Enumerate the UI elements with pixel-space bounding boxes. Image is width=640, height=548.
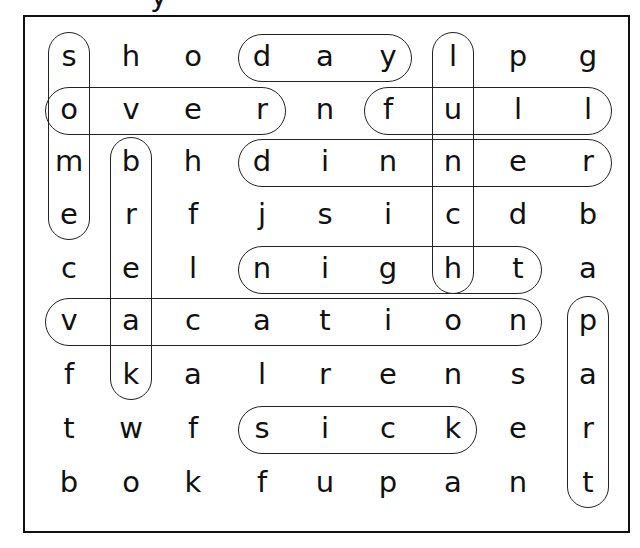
grid-cell[interactable]: l: [173, 248, 213, 288]
grid-cell[interactable]: f: [242, 462, 282, 502]
grid-cell[interactable]: e: [498, 408, 538, 448]
grid-cell[interactable]: b: [111, 141, 151, 181]
grid-cell[interactable]: j: [242, 194, 282, 234]
grid-cell[interactable]: e: [173, 89, 213, 129]
grid-cell[interactable]: a: [305, 36, 345, 76]
grid-cell[interactable]: n: [433, 354, 473, 394]
grid-cell[interactable]: a: [568, 248, 608, 288]
grid-cell[interactable]: a: [173, 354, 213, 394]
word-search-grid: shodaylpgovernfullmbhdinnererfjsicdbceln…: [0, 0, 640, 548]
grid-cell[interactable]: o: [111, 462, 151, 502]
grid-cell[interactable]: h: [433, 248, 473, 288]
grid-cell[interactable]: n: [368, 141, 408, 181]
grid-cell[interactable]: r: [568, 141, 608, 181]
grid-cell[interactable]: n: [498, 300, 538, 340]
grid-cell[interactable]: l: [242, 354, 282, 394]
grid-cell[interactable]: w: [111, 408, 151, 448]
found-word-ring-dinner: [238, 139, 612, 187]
grid-cell[interactable]: e: [111, 248, 151, 288]
grid-cell[interactable]: f: [368, 89, 408, 129]
grid-cell[interactable]: k: [173, 462, 213, 502]
grid-cell[interactable]: r: [305, 354, 345, 394]
grid-cell[interactable]: n: [433, 141, 473, 181]
grid-cell[interactable]: b: [49, 462, 89, 502]
grid-cell[interactable]: c: [433, 194, 473, 234]
grid-cell[interactable]: l: [568, 89, 608, 129]
grid-cell[interactable]: v: [111, 89, 151, 129]
grid-cell[interactable]: o: [49, 89, 89, 129]
grid-cell[interactable]: d: [498, 194, 538, 234]
grid-cell[interactable]: o: [433, 300, 473, 340]
grid-cell[interactable]: f: [49, 354, 89, 394]
grid-cell[interactable]: m: [49, 141, 89, 181]
grid-cell[interactable]: k: [433, 408, 473, 448]
grid-cell[interactable]: f: [173, 408, 213, 448]
grid-cell[interactable]: t: [498, 248, 538, 288]
grid-cell[interactable]: h: [111, 36, 151, 76]
grid-cell[interactable]: p: [498, 36, 538, 76]
grid-cell[interactable]: d: [242, 36, 282, 76]
grid-cell[interactable]: s: [498, 354, 538, 394]
grid-cell[interactable]: i: [305, 141, 345, 181]
grid-cell[interactable]: l: [433, 36, 473, 76]
grid-cell[interactable]: d: [242, 141, 282, 181]
grid-cell[interactable]: c: [49, 248, 89, 288]
grid-cell[interactable]: c: [173, 300, 213, 340]
grid-cell[interactable]: g: [368, 248, 408, 288]
grid-cell[interactable]: n: [498, 462, 538, 502]
grid-cell[interactable]: a: [433, 462, 473, 502]
grid-cell[interactable]: r: [242, 89, 282, 129]
grid-cell[interactable]: u: [305, 462, 345, 502]
grid-cell[interactable]: t: [568, 462, 608, 502]
grid-cell[interactable]: g: [568, 36, 608, 76]
grid-cell[interactable]: s: [242, 408, 282, 448]
grid-cell[interactable]: h: [173, 141, 213, 181]
grid-cell[interactable]: f: [173, 194, 213, 234]
grid-cell[interactable]: n: [305, 89, 345, 129]
grid-cell[interactable]: p: [368, 462, 408, 502]
grid-cell[interactable]: r: [568, 408, 608, 448]
grid-cell[interactable]: e: [368, 354, 408, 394]
grid-cell[interactable]: e: [49, 194, 89, 234]
grid-cell[interactable]: p: [568, 300, 608, 340]
grid-cell[interactable]: u: [433, 89, 473, 129]
grid-cell[interactable]: s: [305, 194, 345, 234]
grid-cell[interactable]: t: [49, 408, 89, 448]
grid-cell[interactable]: a: [568, 354, 608, 394]
grid-cell[interactable]: e: [498, 141, 538, 181]
grid-cell[interactable]: i: [305, 408, 345, 448]
grid-cell[interactable]: t: [305, 300, 345, 340]
grid-cell[interactable]: o: [173, 36, 213, 76]
grid-cell[interactable]: i: [368, 194, 408, 234]
grid-cell[interactable]: k: [111, 354, 151, 394]
grid-cell[interactable]: v: [49, 300, 89, 340]
grid-cell[interactable]: l: [498, 89, 538, 129]
grid-cell[interactable]: s: [49, 36, 89, 76]
grid-cell[interactable]: n: [242, 248, 282, 288]
grid-cell[interactable]: a: [242, 300, 282, 340]
grid-cell[interactable]: a: [111, 300, 151, 340]
grid-cell[interactable]: c: [368, 408, 408, 448]
grid-cell[interactable]: i: [368, 300, 408, 340]
grid-cell[interactable]: i: [305, 248, 345, 288]
grid-cell[interactable]: b: [568, 194, 608, 234]
grid-cell[interactable]: y: [368, 36, 408, 76]
grid-cell[interactable]: r: [111, 194, 151, 234]
